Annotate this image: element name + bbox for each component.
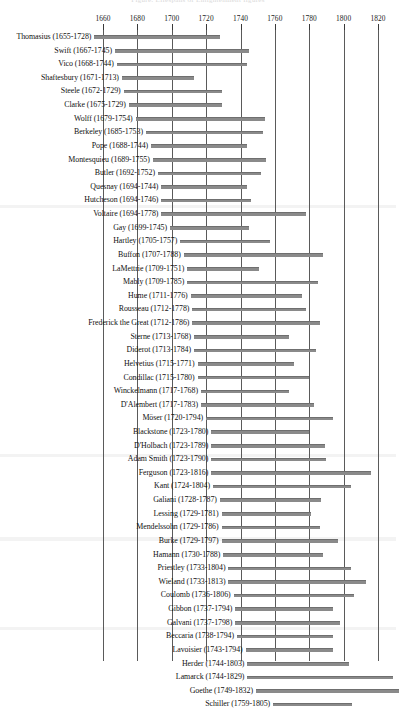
timeline-lifespan-bar[interactable]	[234, 594, 354, 598]
timeline-row[interactable]: Galvani (1737-1798)	[0, 616, 396, 630]
timeline-row[interactable]: Pope (1688-1744)	[0, 139, 396, 153]
timeline-lifespan-bar[interactable]	[247, 676, 393, 680]
timeline-row[interactable]: Clarke (1675-1729)	[0, 98, 396, 112]
timeline-row[interactable]: Hutcheson (1694-1746)	[0, 193, 396, 207]
timeline-lifespan-bar[interactable]	[228, 567, 350, 571]
timeline-row[interactable]: Quesnay (1694-1744)	[0, 180, 396, 194]
timeline-lifespan-bar[interactable]	[161, 212, 305, 216]
timeline-lifespan-bar[interactable]	[235, 607, 333, 611]
timeline-lifespan-bar[interactable]	[158, 172, 261, 176]
timeline-row[interactable]: Möser (1720-1794)	[0, 411, 396, 425]
timeline-row[interactable]: Buffon (1707-1788)	[0, 248, 396, 262]
timeline-row[interactable]: Diderot (1713-1784)	[0, 343, 396, 357]
timeline-lifespan-bar[interactable]	[206, 417, 333, 421]
timeline-lifespan-bar[interactable]	[246, 648, 334, 652]
timeline-row[interactable]: Kant (1724-1804)	[0, 479, 396, 493]
timeline-row[interactable]: Hamann (1730-1788)	[0, 548, 396, 562]
timeline-row[interactable]: Hartley (1705-1757)	[0, 234, 396, 248]
timeline-lifespan-bar[interactable]	[256, 689, 399, 693]
timeline-lifespan-bar[interactable]	[228, 580, 366, 584]
timeline-lifespan-bar[interactable]	[94, 35, 219, 39]
timeline-row[interactable]: Mendelssohn (1729-1786)	[0, 520, 396, 534]
timeline-lifespan-bar[interactable]	[129, 103, 222, 107]
timeline-lifespan-bar[interactable]	[161, 199, 250, 203]
timeline-lifespan-bar[interactable]	[201, 403, 314, 407]
timeline-lifespan-bar[interactable]	[122, 76, 194, 80]
timeline-lifespan-bar[interactable]	[192, 321, 319, 325]
timeline-row[interactable]: Helvetius (1715-1771)	[0, 357, 396, 371]
timeline-row[interactable]: D'Alembert (1717-1783)	[0, 398, 396, 412]
timeline-lifespan-bar[interactable]	[211, 430, 309, 434]
timeline-lifespan-bar[interactable]	[247, 662, 348, 666]
timeline-row[interactable]: Winckelmann (1717-1768)	[0, 384, 396, 398]
timeline-lifespan-bar[interactable]	[201, 390, 289, 394]
timeline-lifespan-bar[interactable]	[222, 512, 311, 516]
timeline-lifespan-bar[interactable]	[273, 703, 352, 707]
timeline-row[interactable]: Beccaria (1738-1794)	[0, 629, 396, 643]
timeline-row[interactable]: Wolff (1679-1754)	[0, 112, 396, 126]
timeline-row[interactable]: Shaftesbury (1671-1713)	[0, 71, 396, 85]
timeline-row[interactable]: Vico (1668-1744)	[0, 57, 396, 71]
timeline-row[interactable]: Rousseau (1712-1778)	[0, 302, 396, 316]
timeline-lifespan-bar[interactable]	[161, 185, 247, 189]
timeline-lifespan-bar[interactable]	[180, 240, 269, 244]
timeline-lifespan-bar[interactable]	[117, 63, 248, 67]
timeline-lifespan-bar[interactable]	[187, 267, 259, 271]
timeline-lifespan-bar[interactable]	[146, 131, 263, 135]
timeline-row[interactable]: D'Holbach (1723-1789)	[0, 439, 396, 453]
timeline-lifespan-bar[interactable]	[213, 485, 351, 489]
timeline-lifespan-bar[interactable]	[151, 144, 247, 148]
timeline-lifespan-bar[interactable]	[222, 526, 320, 530]
timeline-row[interactable]: Blackstone (1723-1780)	[0, 425, 396, 439]
timeline-lifespan-bar[interactable]	[187, 281, 318, 285]
timeline-row[interactable]: Montesquieu (1689-1755)	[0, 153, 396, 167]
timeline-row[interactable]: Goethe (1749-1832)	[0, 684, 396, 698]
timeline-lifespan-bar[interactable]	[222, 539, 339, 543]
timeline-lifespan-bar[interactable]	[153, 158, 266, 162]
timeline-row[interactable]: Schiller (1759-1805)	[0, 697, 396, 711]
timeline-row[interactable]: Swift (1667-1745)	[0, 44, 396, 58]
timeline-lifespan-bar[interactable]	[237, 635, 333, 639]
timeline-row[interactable]: Galiani (1728-1787)	[0, 493, 396, 507]
timeline-lifespan-bar[interactable]	[136, 117, 265, 121]
timeline-row[interactable]: Gibbon (1737-1794)	[0, 602, 396, 616]
timeline-row[interactable]: LaMettrie (1709-1751)	[0, 262, 396, 276]
timeline-row[interactable]: Lessing (1729-1781)	[0, 507, 396, 521]
timeline-row[interactable]: Adam Smith (1723-1790)	[0, 452, 396, 466]
timeline-row[interactable]: Gay (1699-1745)	[0, 221, 396, 235]
timeline-lifespan-bar[interactable]	[211, 458, 326, 462]
timeline-lifespan-bar[interactable]	[220, 498, 321, 502]
timeline-lifespan-bar[interactable]	[194, 349, 316, 353]
timeline-row[interactable]: Priestley (1733-1804)	[0, 561, 396, 575]
timeline-lifespan-bar[interactable]	[198, 376, 310, 380]
timeline-row[interactable]: Burke (1729-1797)	[0, 534, 396, 548]
timeline-row[interactable]: Ferguson (1723-1816)	[0, 466, 396, 480]
timeline-row[interactable]: Berkeley (1685-1753)	[0, 125, 396, 139]
timeline-row[interactable]: Lamarck (1744-1829)	[0, 670, 396, 684]
timeline-lifespan-bar[interactable]	[235, 621, 340, 625]
timeline-lifespan-bar[interactable]	[198, 362, 294, 366]
timeline-row[interactable]: Condillac (1715-1780)	[0, 371, 396, 385]
timeline-row[interactable]: Frederick the Great (1712-1786)	[0, 316, 396, 330]
timeline-row[interactable]: Mably (1709-1785)	[0, 275, 396, 289]
timeline-row[interactable]: Lavoisier (1743-1794)	[0, 643, 396, 657]
timeline-row[interactable]: Voltaire (1694-1778)	[0, 207, 396, 221]
timeline-lifespan-bar[interactable]	[211, 444, 324, 448]
timeline-lifespan-bar[interactable]	[170, 226, 249, 230]
timeline-lifespan-bar[interactable]	[211, 471, 371, 475]
timeline-row[interactable]: Herder (1744-1803)	[0, 657, 396, 671]
timeline-lifespan-bar[interactable]	[223, 553, 323, 557]
timeline-row[interactable]: Hume (1711-1776)	[0, 289, 396, 303]
timeline-row[interactable]: Steele (1672-1729)	[0, 84, 396, 98]
timeline-row[interactable]: Coulomb (1736-1806)	[0, 588, 396, 602]
timeline-lifespan-bar[interactable]	[194, 335, 289, 339]
timeline-lifespan-bar[interactable]	[124, 90, 222, 94]
timeline-lifespan-bar[interactable]	[192, 308, 305, 312]
timeline-lifespan-bar[interactable]	[115, 49, 249, 53]
timeline-row[interactable]: Butler (1692-1752)	[0, 166, 396, 180]
timeline-row[interactable]: Wieland (1733-1813)	[0, 575, 396, 589]
timeline-lifespan-bar[interactable]	[191, 294, 303, 298]
timeline-lifespan-bar[interactable]	[184, 253, 323, 257]
timeline-row[interactable]: Sterne (1713-1768)	[0, 330, 396, 344]
timeline-row[interactable]: Thomasius (1655-1728)	[0, 30, 396, 44]
